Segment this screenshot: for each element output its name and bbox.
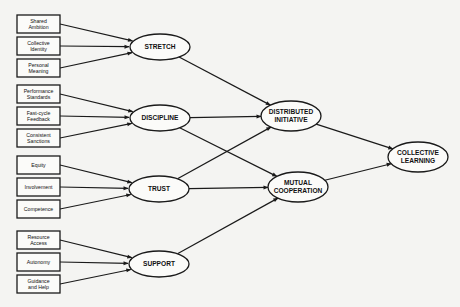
box-label: Equity (31, 162, 46, 168)
node-trust: TRUST (129, 176, 189, 202)
box-label: and Help (28, 284, 49, 290)
box-fast-cycle-feedback: Fast-cycleFeedback (17, 107, 60, 125)
arrow-competence-to-trust (60, 194, 131, 209)
node-collective-learning: COLLECTIVELEARNING (388, 142, 448, 172)
arrow-discipline-to-distributed-initiative (190, 116, 261, 117)
box-label: Ambition (28, 24, 48, 30)
node-support: SUPPORT (129, 251, 189, 277)
node-label: DISTRIBUTED (269, 108, 314, 115)
arrow-support-to-mutual-cooperation (177, 198, 277, 254)
node-label: COOPERATION (274, 187, 323, 194)
node-label: STRETCH (144, 43, 175, 50)
box-personal-meaning: PersonalMeaning (17, 59, 60, 77)
box-label: Personal (28, 62, 48, 68)
arrow-guidance-and-help-to-support (60, 269, 131, 284)
path-diagram: SharedAmbitionCollectiveIdentityPersonal… (0, 0, 460, 307)
box-autonomy: Autonomy (17, 253, 60, 271)
edges-layer (60, 24, 393, 284)
node-label: SUPPORT (143, 260, 175, 267)
box-label: Identity (30, 46, 47, 52)
arrow-performance-standards-to-discipline (60, 94, 133, 112)
construct-nodes-layer: STRETCHDISCIPLINETRUSTSUPPORTDISTRIBUTED… (129, 34, 448, 277)
node-label: MUTUAL (284, 179, 312, 186)
arrow-equity-to-trust (60, 165, 132, 183)
box-competence: Competence (17, 200, 60, 218)
node-label: TRUST (148, 185, 170, 192)
arrow-consistent-sanctions-to-discipline (60, 123, 132, 138)
box-label: Guidance (27, 278, 49, 284)
box-guidance-and-help: Guidanceand Help (17, 275, 60, 293)
input-boxes-layer: SharedAmbitionCollectiveIdentityPersonal… (17, 15, 60, 293)
arrow-shared-ambition-to-stretch (60, 24, 133, 41)
box-label: Access (30, 240, 47, 246)
arrow-fast-cycle-feedback-to-discipline (60, 116, 129, 117)
node-distributed-initiative: DISTRIBUTEDINITIATIVE (261, 101, 321, 131)
box-label: Sanctions (27, 138, 50, 144)
box-label: Fast-cycle (27, 110, 51, 116)
node-discipline: DISCIPLINE (130, 105, 190, 131)
arrow-resource-access-to-support (60, 240, 132, 258)
node-label: LEARNING (401, 157, 435, 164)
box-label: Feedback (27, 116, 50, 122)
arrow-autonomy-to-support (60, 262, 128, 263)
box-performance-standards: PerformanceStandards (17, 85, 60, 103)
box-resource-access: ResourceAccess (17, 231, 60, 249)
arrow-involvement-to-trust (60, 187, 128, 188)
box-collective-identity: CollectiveIdentity (17, 37, 60, 55)
box-label: Shared (30, 18, 47, 24)
arrow-trust-to-distributed-initiative (178, 127, 271, 179)
box-label: Competence (24, 206, 54, 212)
arrow-collective-identity-to-stretch (60, 46, 129, 47)
node-label: DISCIPLINE (141, 114, 179, 121)
box-label: Resource (27, 234, 49, 240)
box-consistent-sanctions: ConsistentSanctions (17, 129, 60, 147)
box-involvement: Involvement (17, 178, 60, 196)
arrow-stretch-to-distributed-initiative (179, 57, 270, 105)
node-label: INITIATIVE (274, 116, 308, 123)
arrow-personal-meaning-to-stretch (60, 53, 132, 68)
box-label: Standards (27, 94, 51, 100)
box-label: Performance (24, 88, 54, 94)
box-label: Meaning (29, 68, 49, 74)
box-label: Autonomy (27, 259, 51, 265)
arrow-trust-to-mutual-cooperation (189, 187, 268, 188)
node-mutual-cooperation: MUTUALCOOPERATION (268, 172, 328, 202)
arrow-distributed-initiative-to-collective-learning (316, 124, 393, 149)
node-stretch: STRETCH (130, 34, 190, 60)
box-label: Collective (27, 40, 50, 46)
node-label: COLLECTIVE (397, 149, 439, 156)
box-label: Involvement (25, 184, 54, 190)
box-equity: Equity (17, 156, 60, 174)
box-label: Consistent (26, 132, 51, 138)
arrow-mutual-cooperation-to-collective-learning (325, 164, 391, 181)
box-shared-ambition: SharedAmbition (17, 15, 60, 33)
